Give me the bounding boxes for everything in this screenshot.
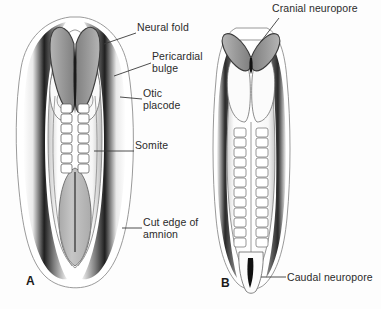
embryo-a-group (16, 17, 133, 288)
label-cut-edge-of-amnion: Cut edge of amnion (143, 216, 198, 240)
label-pericardial-bulge: Pericardial bulge (152, 50, 203, 74)
panel-letter-a: A (26, 274, 35, 288)
embryo-figure: Neural fold Pericardial bulge Otic placo… (0, 0, 381, 309)
label-somite: Somite (135, 139, 168, 151)
embryo-illustration (0, 0, 381, 309)
embryo-b-group (213, 28, 290, 293)
label-neural-fold: Neural fold (137, 21, 189, 33)
label-cranial-neuropore: Cranial neuropore (272, 2, 358, 14)
label-otic-placode: Otic placode (143, 87, 180, 111)
label-caudal-neuropore: Caudal neuropore (287, 271, 373, 283)
panel-letter-b: B (221, 276, 230, 290)
